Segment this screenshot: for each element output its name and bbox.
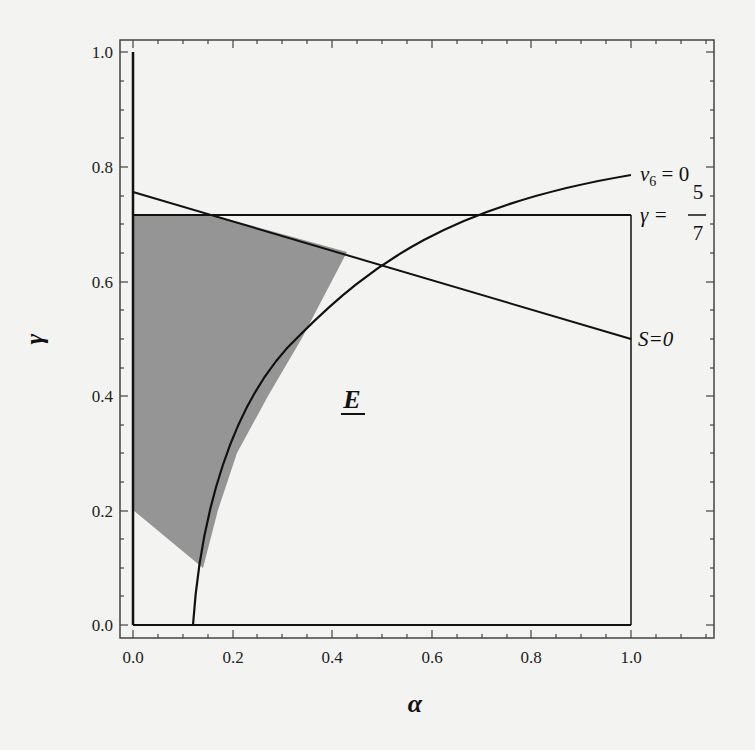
y-axis-ticks xyxy=(120,52,128,625)
y-tick-label: 0.0 xyxy=(92,616,113,635)
y-tick-label: 0.8 xyxy=(92,158,113,177)
x-axis-ticks-top xyxy=(133,40,706,48)
region-e-label: E xyxy=(342,385,360,414)
x-tick-label: 0.0 xyxy=(122,648,143,667)
x-tick-label: 0.6 xyxy=(421,648,442,667)
gamma-fraction-denominator: 7 xyxy=(693,221,704,245)
x-axis-ticks xyxy=(133,630,706,638)
x-tick-label: 0.8 xyxy=(520,648,541,667)
gamma-equation-label: γ = xyxy=(640,203,668,227)
y-tick-label: 0.2 xyxy=(92,502,113,521)
y-tick-label: 0.6 xyxy=(92,273,113,292)
x-tick-label: 0.2 xyxy=(222,648,243,667)
x-tick-label: 1.0 xyxy=(620,648,641,667)
s-zero-label: S=0 xyxy=(638,327,674,351)
y-tick-label: 0.4 xyxy=(92,387,114,406)
shaded-region xyxy=(133,215,347,568)
y-axis-label: γ xyxy=(20,333,49,344)
y-tick-labels: 0.0 0.2 0.4 0.6 0.8 1.0 xyxy=(92,43,114,635)
x-tick-label: 0.4 xyxy=(321,648,343,667)
x-axis-label: α xyxy=(408,689,423,718)
gamma-fraction-numerator: 5 xyxy=(693,180,704,204)
x-tick-labels: 0.0 0.2 0.4 0.6 0.8 1.0 xyxy=(122,648,641,667)
nu6-curve-label: ν6 = 0 xyxy=(640,162,689,189)
region-plot: 0.0 0.2 0.4 0.6 0.8 1.0 0.0 0.2 0.4 0.6 … xyxy=(0,0,755,750)
y-axis-ticks-right xyxy=(706,52,714,625)
y-tick-label: 1.0 xyxy=(92,43,113,62)
